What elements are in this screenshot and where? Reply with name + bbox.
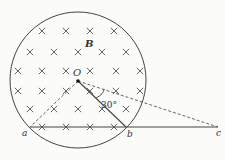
label-point-a: a [22,128,27,138]
x-mark-icon [137,88,143,94]
x-mark-icon [63,68,69,74]
magnetic-field-diagram: B O 30° a b c [0,0,225,160]
x-mark-icon [113,88,119,94]
label-point-b: b [127,129,133,139]
x-mark-icon [87,68,93,74]
x-mark-icon [39,88,45,94]
x-mark-icon [99,49,105,55]
x-mark-icon [27,49,33,55]
x-mark-icon [15,88,21,94]
x-mark-icon [113,68,119,74]
dashed-line-oc [78,81,218,127]
label-angle: 30° [101,100,117,110]
label-point-c: c [216,128,221,138]
x-mark-icon [75,106,81,112]
x-mark-icon [137,68,143,74]
x-mark-icon [87,28,93,34]
x-mark-icon [63,28,69,34]
x-mark-icon [51,49,57,55]
dashed-line-oa [30,81,78,127]
angle-arc-30 [96,89,104,98]
x-mark-icon [123,106,129,112]
x-mark-icon [111,28,117,34]
center-point-o [76,79,80,83]
x-mark-icon [39,68,45,74]
x-mark-icon [123,49,129,55]
label-center-o: O [73,67,81,78]
x-mark-icon [75,49,81,55]
x-mark-icon [39,28,45,34]
label-field-b: B [84,38,93,49]
x-mark-icon [15,68,21,74]
x-mark-icon [63,88,69,94]
field-x-marks [15,28,143,130]
x-mark-icon [27,106,33,112]
